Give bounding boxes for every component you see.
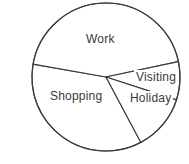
pie-label-visiting: Visiting [134,70,178,85]
pie-label-work: Work [86,33,115,46]
pie-label-shopping: Shopping [50,90,102,103]
pie-chart-figure: Work Shopping Visiting Holiday [0,0,189,164]
pie-label-holiday: Holiday [128,91,173,106]
